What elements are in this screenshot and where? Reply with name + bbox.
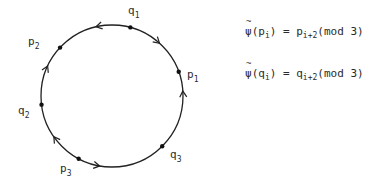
point-q1: [128, 25, 132, 29]
point-p3: [76, 156, 80, 160]
label-q1: q1: [128, 4, 140, 20]
point-q3: [160, 144, 164, 148]
formula-q: ψ(qi) = qi+2(mod 3): [245, 67, 364, 82]
label-q3: q3: [170, 148, 182, 164]
point-q2: [39, 102, 43, 106]
point-p2: [58, 45, 62, 49]
formula-p: ψ(pi) = pi+2(mod 3): [245, 25, 364, 40]
psi-tilde: ψ: [245, 67, 252, 80]
label-p3: p3: [60, 162, 72, 178]
label-p1: p1: [187, 68, 199, 84]
label-p2: p2: [28, 35, 40, 51]
label-q2: q2: [18, 104, 30, 120]
point-p1: [177, 70, 181, 74]
psi-tilde: ψ: [245, 25, 252, 38]
